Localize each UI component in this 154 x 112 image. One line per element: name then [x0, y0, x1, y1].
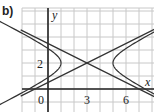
hyperbola-plot: 0362xy: [0, 0, 154, 112]
y-axis-label: y: [51, 8, 58, 22]
x-axis-label: x: [144, 75, 151, 89]
x-tick-label: 3: [84, 93, 90, 107]
x-tick-label: 6: [123, 93, 129, 107]
axis-labels: 0362xy: [37, 8, 151, 107]
x-tick-label: 0: [38, 93, 44, 107]
y-tick-label: 2: [37, 57, 43, 71]
